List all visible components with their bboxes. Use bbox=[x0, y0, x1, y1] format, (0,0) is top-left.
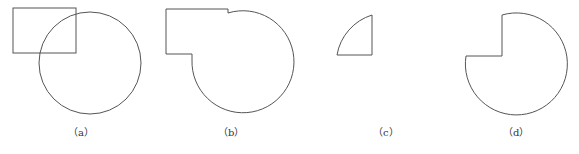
panel-b-union-outline bbox=[166, 9, 294, 113]
panel-c-intersection-outline bbox=[337, 15, 372, 55]
panel-c-label: （c） bbox=[373, 124, 399, 139]
panel-d-shapes bbox=[465, 13, 567, 115]
panel-a-label: （a） bbox=[68, 124, 94, 139]
panel-b-label: （b） bbox=[218, 124, 244, 139]
panel-a-rectangle bbox=[13, 8, 76, 53]
panel-a-shapes bbox=[13, 8, 141, 114]
panel-b-shapes bbox=[166, 9, 294, 113]
panel-d-label: （d） bbox=[503, 124, 529, 139]
panel-d-difference-outline bbox=[465, 13, 567, 115]
panel-c-shapes bbox=[337, 15, 372, 55]
panel-a-circle bbox=[39, 12, 141, 114]
